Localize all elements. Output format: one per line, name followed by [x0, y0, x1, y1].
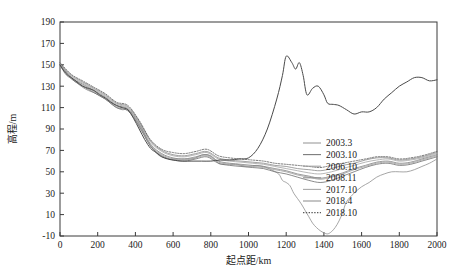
x-axis-title: 起点距/km: [226, 255, 272, 266]
x-tick-label: 0: [58, 240, 63, 250]
series-line-2003-3: [60, 65, 437, 234]
legend-label-1: 2003.10: [326, 150, 357, 160]
series-line-2018-4: [60, 64, 437, 171]
y-tick-label: 10: [46, 210, 56, 220]
y-tick-label: 170: [41, 39, 56, 49]
legend: 2003.32003.102006.102008.112017.102018.4…: [303, 138, 357, 218]
y-tick-label: 190: [41, 17, 56, 27]
y-axis-ticks: -101030507090110130150170190: [41, 17, 64, 241]
x-tick-label: 1000: [239, 240, 258, 250]
chart-container: -101030507090110130150170190 02004006008…: [0, 0, 464, 280]
y-tick-label: -10: [42, 231, 55, 241]
series-line-profile-envelope: [60, 56, 437, 161]
series-layer: [60, 56, 437, 234]
x-tick-label: 2000: [428, 240, 447, 250]
y-tick-label: 130: [41, 82, 56, 92]
x-tick-label: 600: [166, 240, 181, 250]
legend-label-5: 2018.4: [326, 196, 352, 206]
y-tick-label: 90: [46, 124, 56, 134]
x-tick-label: 1600: [352, 240, 371, 250]
legend-label-0: 2003.3: [326, 138, 352, 148]
y-tick-label: 30: [46, 189, 56, 199]
elevation-profile-chart: -101030507090110130150170190 02004006008…: [0, 0, 464, 280]
series-line-2018-10: [60, 63, 437, 168]
y-tick-label: 70: [46, 146, 56, 156]
x-tick-label: 1400: [314, 240, 333, 250]
x-axis-ticks: 0200400600800100012001400160018002000: [58, 232, 447, 250]
y-tick-label: 50: [46, 167, 56, 177]
x-tick-label: 1800: [390, 240, 409, 250]
x-tick-label: 800: [204, 240, 219, 250]
y-tick-label: 150: [41, 60, 56, 70]
y-axis-title: 高程/m: [6, 114, 18, 145]
x-tick-label: 1200: [277, 240, 296, 250]
y-tick-label: 110: [41, 103, 55, 113]
legend-label-6: 2018.10: [326, 208, 357, 218]
legend-label-4: 2017.10: [326, 185, 357, 195]
x-tick-label: 200: [91, 240, 106, 250]
plot-frame: [60, 22, 437, 236]
series-line-2008-11: [60, 65, 437, 178]
legend-label-2: 2006.10: [326, 162, 357, 172]
x-tick-label: 400: [128, 240, 143, 250]
legend-label-3: 2008.11: [326, 173, 357, 183]
